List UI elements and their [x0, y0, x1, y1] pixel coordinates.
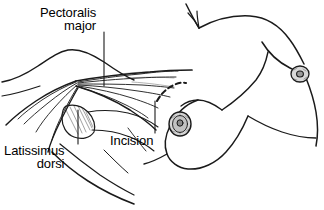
incision-dashed-arc [157, 83, 186, 101]
label-pectoralis-line2: major [40, 19, 96, 32]
latissimus-insertion-hatching [66, 106, 93, 134]
chest-upper-contour [199, 16, 304, 64]
chest-mid-contour [248, 116, 316, 138]
lower-back-line [104, 150, 128, 173]
label-latissimus-line2: dorsi [4, 157, 64, 170]
inter-breast-contour [222, 52, 268, 110]
flap-rotation-bundle-upper [88, 111, 158, 127]
latissimus-upper-border [6, 81, 76, 125]
label-pectoralis-major: Pectoralis major [40, 6, 96, 32]
label-latissimus-dorsi: Latissimus dorsi [4, 144, 64, 170]
pectoralis-lower-border [76, 86, 156, 130]
label-incision: Incision [110, 134, 153, 147]
medical-illustration-figure: Pectoralis major Latissimus dorsi Incisi… [0, 0, 324, 210]
far-breast-lower [306, 78, 318, 146]
far-nipple [297, 71, 304, 77]
near-breast-underfold [144, 154, 167, 164]
torso-outline-left [2, 86, 40, 96]
near-nipple [177, 120, 183, 126]
